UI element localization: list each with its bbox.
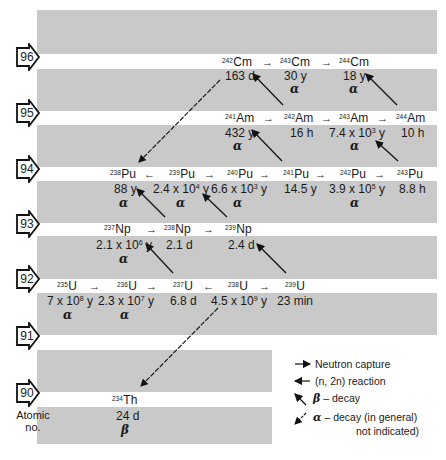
half-life-u236: 2.3 x 107 y [98, 294, 154, 308]
half-life-u239: 23 min [277, 294, 313, 308]
half-life-am242: 16 h [290, 126, 313, 140]
neutron-capture-arrow: → [203, 222, 214, 236]
isotope-am244: 244Am [396, 111, 425, 125]
half-life-u235: 7 x 108 y [47, 294, 93, 308]
decay-mode-u236: α [120, 308, 129, 322]
decay-mode-pu239: α [176, 196, 185, 210]
isotope-cm242: 242Cm [222, 55, 252, 69]
neutron-capture-arrow: → [374, 167, 385, 181]
beta-arrow-am244-cm244 [366, 74, 397, 105]
decay-mode-pu238: α [119, 196, 128, 210]
half-life-pu239: 2.4 x 104 y [153, 182, 209, 196]
half-life-th234: 24 d [116, 409, 139, 423]
half-life-am243: 7.4 x 103 y [329, 126, 385, 140]
beta-arrow-pu241-am241 [252, 130, 282, 161]
half-life-pu240: 6.6 x 103 y [211, 182, 267, 196]
neutron-capture-arrow: → [315, 167, 326, 181]
half-life-pu242: 3.9 x 105 y [329, 182, 385, 196]
neutron-capture-arrow: → [204, 167, 215, 181]
isotope-np239: 239Np [225, 222, 252, 236]
neutron-capture-arrow: → [321, 111, 332, 125]
half-life-am241: 432 y [225, 126, 254, 140]
beta-arrow-pu243-am243 [376, 141, 398, 161]
n2n-reaction-arrow: ← [203, 279, 214, 293]
half-life-pu241: 14.5 y [284, 182, 317, 196]
alpha-text: – decay (in general) [321, 411, 417, 423]
decay-mode-u235: α [63, 308, 72, 322]
neutron-capture-arrow: → [262, 55, 273, 69]
decay-mode-pu240: α [233, 196, 242, 210]
isotope-u235: 235U [57, 279, 77, 293]
isotope-pu240: 240Pu [227, 167, 253, 181]
isotope-np238: 238Np [164, 222, 191, 236]
half-life-cm242: 163 d [225, 69, 255, 83]
isotope-u239: 239U [285, 279, 305, 293]
decay-mode-am241: α [233, 139, 242, 153]
decay-mode-th234: β [121, 423, 129, 437]
half-life-u238: 4.5 x 109 y [211, 294, 267, 308]
half-life-am244: 10 h [401, 126, 424, 140]
isotope-th234: 234Th [112, 393, 137, 407]
neutron-capture-arrow: → [377, 111, 388, 125]
isotope-pu242: 242Pu [340, 167, 366, 181]
neutron-capture-arrow: → [263, 111, 274, 125]
legend-n2n-reaction: (n, 2n) reaction [315, 375, 386, 388]
neutron-capture-arrow: → [89, 279, 100, 293]
beta-arrow-u239-np239 [257, 244, 286, 273]
isotope-am241: 241Am [225, 111, 254, 125]
neutron-capture-arrow: → [259, 167, 270, 181]
decay-mode-pu242: α [350, 196, 359, 210]
isotope-cm244: 244Cm [339, 55, 369, 69]
neutron-capture-arrow: → [146, 222, 157, 236]
decay-mode-cm244: α [349, 82, 358, 96]
legend-beta-decay: β – decay [313, 392, 360, 406]
legend-alpha-decay: α – decay (in general) [313, 411, 417, 425]
isotope-cm243: 243Cm [280, 55, 310, 69]
beta-text: – decay [320, 392, 360, 404]
half-life-cm243: 30 y [284, 69, 307, 83]
isotope-np237: 237Np [104, 222, 131, 236]
decay-mode-cm243: α [290, 82, 299, 96]
isotope-u237: 237U [173, 279, 193, 293]
half-life-np239: 2.4 d [228, 238, 255, 252]
beta-arrow-am242-cm242 [253, 74, 283, 105]
half-life-cm244: 18 y [343, 69, 366, 83]
n2n-reaction-arrow: ← [144, 167, 155, 181]
neutron-capture-arrow: → [259, 279, 270, 293]
half-life-pu243: 8.8 h [399, 182, 426, 196]
decay-mode-np237: α [119, 252, 128, 266]
isotope-am242: 242Am [284, 111, 313, 125]
isotope-pu243: 243Pu [397, 167, 423, 181]
isotope-u238: 238U [228, 279, 248, 293]
neutron-capture-arrow: → [146, 279, 157, 293]
alpha-arrow-cm242-pu238 [139, 80, 220, 162]
legend-beta-arrow [295, 394, 306, 405]
half-life-u237: 6.8 d [170, 294, 197, 308]
half-life-np238: 2.1 d [166, 238, 193, 252]
beta-arrow-np239-pu239 [203, 194, 227, 217]
isotope-u236: 236U [117, 279, 137, 293]
neutron-capture-arrow: → [321, 55, 332, 69]
legend-neutron-capture: Neutron capture [315, 358, 390, 371]
isotope-pu238: 238Pu [110, 167, 136, 181]
isotope-pu239: 239Pu [169, 167, 195, 181]
decay-lines [0, 0, 446, 460]
decay-mode-am243: α [350, 139, 359, 153]
legend-alpha-decay-line2: not indicated) [356, 425, 419, 438]
isotope-am243: 243Am [339, 111, 368, 125]
alpha-arrow-u238-th234 [141, 308, 218, 386]
half-life-np237: 2.1 x 106 y [96, 238, 152, 252]
isotope-pu241: 241Pu [283, 167, 309, 181]
legend-alpha-arrow [295, 413, 306, 424]
half-life-pu238: 88 y [114, 182, 137, 196]
